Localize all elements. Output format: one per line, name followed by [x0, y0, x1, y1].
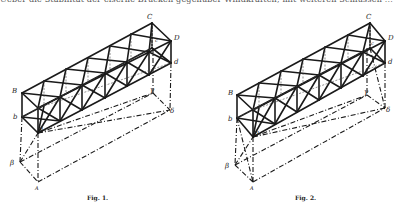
- label-gamma: γ: [150, 86, 155, 94]
- label-a: a: [255, 129, 259, 137]
- label-b: b: [228, 115, 233, 123]
- label-A: A: [249, 185, 254, 191]
- label-a: a: [39, 125, 43, 133]
- label-gamma: γ: [364, 88, 369, 96]
- label-c: c: [371, 40, 374, 46]
- label-d: d: [174, 58, 179, 66]
- label-b: b: [13, 113, 18, 121]
- truss-bridge-diagram-1: C D d c B b a γ δ β A: [0, 0, 200, 205]
- figure-2: C D d c B b a γ δ β A Fig. 2.: [200, 0, 401, 205]
- label-C: C: [147, 13, 153, 21]
- figure-1: C D d c B b a γ δ β A Fig. 1.: [0, 0, 200, 205]
- label-delta: δ: [170, 107, 174, 115]
- label-D: D: [173, 34, 180, 42]
- label-B: B: [227, 89, 233, 97]
- label-delta: δ: [386, 106, 390, 114]
- label-beta: β: [224, 162, 229, 170]
- label-c: c: [155, 37, 158, 43]
- label-D: D: [387, 34, 394, 42]
- figure-2-caption: Fig. 2.: [295, 194, 316, 201]
- label-C: C: [366, 13, 372, 21]
- truss-bridge-diagram-2: C D d c B b a γ δ β A: [200, 0, 401, 205]
- label-beta: β: [9, 159, 14, 167]
- label-d: d: [388, 58, 393, 66]
- label-A: A: [34, 185, 39, 191]
- label-B: B: [11, 87, 17, 95]
- figure-1-caption: Fig. 1.: [87, 194, 108, 201]
